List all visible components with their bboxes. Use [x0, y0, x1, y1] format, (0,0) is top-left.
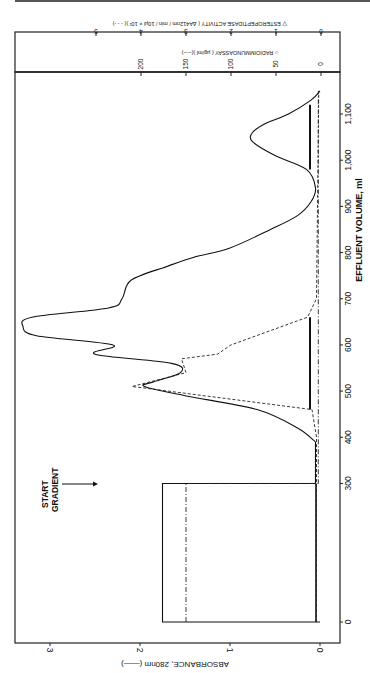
x-tick-label: 700 — [343, 291, 353, 305]
x-tick-label: 800 — [343, 245, 353, 259]
esteropeptidase-line — [132, 91, 319, 622]
ria-tick-label: 50 — [272, 60, 279, 68]
x-tick-label: 900 — [343, 199, 353, 213]
absorbance-tick-label: 0 — [315, 648, 325, 653]
x-tick-label: 300 — [343, 476, 353, 490]
absorbance-tick-label: 2 — [135, 648, 145, 653]
ester-tick-label: 2 — [229, 28, 233, 35]
ester-axis-frame — [15, 32, 340, 72]
arrow-head-icon — [93, 482, 98, 487]
ria-tick-label: 150 — [182, 58, 189, 69]
absorbance-curve — [22, 91, 320, 442]
absorbance-tick-label: 3 — [45, 648, 55, 653]
ria-tick-label: 100 — [227, 58, 234, 69]
x-tick-label: 500 — [343, 384, 353, 398]
x-tick-label: 1,000 — [343, 149, 353, 171]
absorbance-axis-ticks: 0123 — [45, 643, 325, 653]
chromatography-chart: 03004005006007008009001,0001,100 0123 05… — [0, 0, 370, 673]
x-tick-label: 600 — [343, 338, 353, 352]
start-gradient-annotation: START GRADIENT — [40, 467, 98, 512]
ria-tick-label: 200 — [137, 58, 144, 69]
ria-axis-ticks: 050100150200 — [137, 58, 324, 76]
x-tick-label: 1,100 — [343, 103, 353, 125]
ria-tick-label: 0 — [317, 62, 324, 66]
plot-frame — [15, 72, 340, 643]
ester-tick-label: 3 — [184, 28, 188, 35]
absorbance-axis-title: ABSORBANCE, 280nm (——) — [121, 660, 229, 669]
start-gradient-label-1: START — [40, 479, 50, 508]
ria-line — [186, 91, 318, 622]
ester-tick-label: 1 — [274, 28, 278, 35]
absorbance-tick-label: 1 — [225, 648, 235, 653]
x-axis-ticks: 03004005006007008009001,0001,100 — [340, 103, 353, 624]
ria-axis-title: ○ RADIOIMMUNOASSAY ( µg/ml )(–·–) — [182, 50, 279, 56]
x-tick-label: 400 — [343, 430, 353, 444]
ester-tick-label: 0 — [319, 28, 323, 35]
x-axis-title: EFFLUENT VOLUME, ml — [354, 178, 364, 282]
start-gradient-label-2: GRADIENT — [50, 467, 60, 512]
ester-tick-label: 4 — [139, 28, 143, 35]
ester-axis-title: ▽ ESTEROPEPTIDASE ACTIVITY ( ΔA412nm / m… — [112, 21, 287, 27]
ester-tick-label: 5 — [94, 28, 98, 35]
x-tick-label: 0 — [343, 619, 353, 624]
series-layer — [22, 91, 320, 622]
